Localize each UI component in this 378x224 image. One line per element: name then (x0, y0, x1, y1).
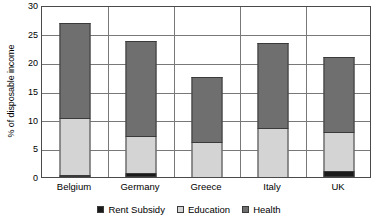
segment-education-greece[interactable] (192, 142, 223, 177)
legend-label: Rent Subsidy (108, 204, 165, 215)
legend-item-rent-subsidy[interactable]: Rent Subsidy (97, 204, 165, 215)
legend-item-education[interactable]: Education (177, 204, 230, 215)
x-tick-label-italy: Italy (239, 181, 305, 193)
legend-label: Education (188, 204, 230, 215)
y-tick-label-0: 0 (16, 174, 38, 183)
segment-education-germany[interactable] (126, 136, 157, 173)
y-tick-label-15: 15 (16, 88, 38, 97)
segment-health-belgium[interactable] (60, 23, 91, 118)
y-tick-label-30: 30 (16, 2, 38, 11)
segment-health-greece[interactable] (192, 77, 223, 142)
stacked-bar-chart: % of disposable income 051015202530 Belg… (0, 0, 378, 224)
bar-greece[interactable] (192, 77, 223, 177)
legend-label: Health (253, 204, 280, 215)
x-tick-label-germany: Germany (107, 181, 173, 193)
bar-uk[interactable] (324, 57, 355, 177)
y-tick-label-25: 25 (16, 30, 38, 39)
y-tick-label-20: 20 (16, 59, 38, 68)
segment-rent-subsidy-uk[interactable] (324, 171, 355, 177)
bar-slot-germany (108, 7, 174, 177)
segment-education-uk[interactable] (324, 132, 355, 171)
segment-health-uk[interactable] (324, 57, 355, 133)
legend-swatch-icon-health (242, 206, 249, 213)
legend-swatch-icon-rent-subsidy (97, 206, 104, 213)
x-tick-label-greece: Greece (173, 181, 239, 193)
segment-education-italy[interactable] (258, 128, 289, 177)
bar-slot-greece (174, 7, 240, 177)
segment-health-italy[interactable] (258, 43, 289, 128)
plot-area (41, 6, 371, 178)
segment-rent-subsidy-belgium[interactable] (60, 175, 91, 177)
bar-belgium[interactable] (60, 23, 91, 177)
bar-slot-uk (306, 7, 372, 177)
legend-item-health[interactable]: Health (242, 204, 280, 215)
x-tick-label-uk: UK (305, 181, 371, 193)
bar-germany[interactable] (126, 41, 157, 177)
x-axis-tick-labels: BelgiumGermanyGreeceItalyUK (41, 181, 371, 197)
segment-rent-subsidy-germany[interactable] (126, 173, 157, 177)
y-tick-label-5: 5 (16, 145, 38, 154)
chart-legend: Rent SubsidyEducationHealth (0, 204, 378, 215)
y-axis-title: % of disposable income (6, 7, 16, 175)
bar-slot-italy (240, 7, 306, 177)
legend-swatch-icon-education (177, 206, 184, 213)
bar-italy[interactable] (258, 43, 289, 177)
segment-health-germany[interactable] (126, 41, 157, 137)
y-axis-tick-labels: 051015202530 (16, 0, 38, 184)
bar-slot-belgium (42, 7, 108, 177)
x-tick-label-belgium: Belgium (41, 181, 107, 193)
segment-education-belgium[interactable] (60, 118, 91, 175)
y-tick-label-10: 10 (16, 116, 38, 125)
